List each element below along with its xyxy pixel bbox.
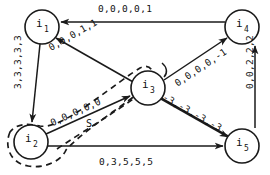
edge-label-i4-i1: 0,0,0,0,1	[98, 4, 152, 14]
region-cusp-marker	[162, 63, 166, 77]
node-i1-letter: i	[36, 17, 43, 30]
node-i2-subscript: 2	[33, 140, 38, 149]
region-s-label: S	[86, 119, 92, 129]
edge-i1-to-i2	[32, 44, 40, 122]
edge-label-i4-i5: 0,0,2,2,2	[245, 35, 255, 89]
graph-diagram: i 1 i 2 i 3 i 4 i 5 0,0,0,0,1 3,3,3,3,3 …	[0, 0, 270, 175]
node-i5-letter: i	[236, 136, 243, 149]
edge-label-i1-i2: 3,3,3,3,3	[13, 35, 23, 89]
node-i4-subscript: 4	[244, 25, 249, 34]
node-i1-subscript: 1	[44, 25, 49, 34]
node-i2-letter: i	[25, 132, 32, 145]
edge-label-i2-i5: 0,3,5,5,5	[99, 157, 153, 167]
diagram-canvas: i 1 i 2 i 3 i 4 i 5	[0, 0, 270, 175]
node-i3-letter: i	[142, 78, 149, 91]
node-i5-subscript: 5	[244, 144, 249, 153]
node-i4-letter: i	[236, 17, 243, 30]
node-i3-subscript: 3	[150, 86, 155, 95]
